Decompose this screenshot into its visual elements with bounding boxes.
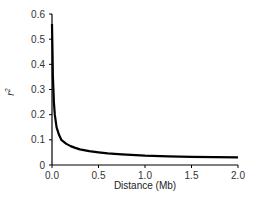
x-axis: 0.00.51.01.52.0 [45,165,245,181]
x-tick-label: 2.0 [231,170,245,181]
x-tick-label: 0.5 [92,170,106,181]
x-tick-label: 0.0 [45,170,59,181]
y-tick-label: 0.2 [31,109,45,120]
y-tick-label: 0 [39,160,45,171]
ld-decay-chart: 00.10.20.30.40.50.6 0.00.51.01.52.0 Dist… [0,0,255,204]
y-tick-label: 0.1 [31,134,45,145]
x-axis-label: Distance (Mb) [114,180,176,191]
ld-decay-curve [52,24,238,157]
y-tick-label: 0.3 [31,84,45,95]
y-tick-label: 0.5 [31,34,45,45]
y-axis: 00.10.20.30.40.50.6 [31,9,52,171]
x-tick-label: 1.5 [185,170,199,181]
y-axis-label: r2 [4,88,16,95]
y-tick-label: 0.6 [31,9,45,20]
y-tick-label: 0.4 [31,59,45,70]
